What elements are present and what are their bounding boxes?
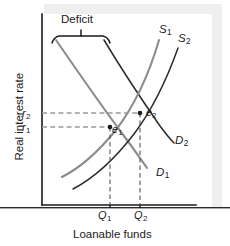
equilibrium-label-e2-sub: 2 <box>152 111 157 120</box>
x-tick-label-q1: Q1 <box>98 210 111 221</box>
x-tick-label-q2-sub: 2 <box>143 214 148 223</box>
equilibrium-label-e2: e2 <box>146 107 156 118</box>
x-tick-label-q1-base: Q <box>98 209 107 221</box>
page-shadow-right <box>212 4 222 208</box>
y-axis-title: Real interest rate <box>14 61 26 173</box>
curve-label-d1-sub: 1 <box>164 171 169 180</box>
economics-figure: Deficit S1 S2 D2 D1 e1 e2 r2 r1 Q1 Q2 Lo… <box>0 0 230 246</box>
equilibrium-label-e1-base: e <box>112 123 118 135</box>
equilibrium-label-e1-sub: 1 <box>118 128 123 137</box>
equilibrium-label-e2-base: e <box>146 106 152 118</box>
curve-label-s1: S1 <box>159 24 172 36</box>
curve-label-s2-base: S <box>178 32 186 44</box>
x-axis-title: Loanable funds <box>73 229 152 241</box>
curve-supply-1 <box>62 40 159 177</box>
equilibrium-label-e1: e1 <box>112 124 122 135</box>
deficit-label: Deficit <box>61 14 93 26</box>
curve-label-s2-sub: 2 <box>186 37 191 46</box>
curve-label-d2: D2 <box>175 135 188 147</box>
x-tick-label-q2-base: Q <box>134 209 143 221</box>
deficit-brace <box>52 30 110 43</box>
y-tick-label-r2-sub: 2 <box>26 112 31 121</box>
y-tick-label-r1-sub: 1 <box>26 126 31 135</box>
curve-label-s2: S2 <box>178 33 191 45</box>
curve-label-s1-base: S <box>159 23 167 35</box>
equilibrium-point-e2 <box>138 111 143 116</box>
x-tick-label-q1-sub: 1 <box>107 214 112 223</box>
curve-label-d1: D1 <box>156 167 169 179</box>
curve-label-d2-sub: 2 <box>183 139 188 148</box>
page-rule-bottom <box>0 207 230 208</box>
curve-label-s1-sub: 1 <box>167 28 172 37</box>
x-tick-label-q2: Q2 <box>134 210 147 221</box>
